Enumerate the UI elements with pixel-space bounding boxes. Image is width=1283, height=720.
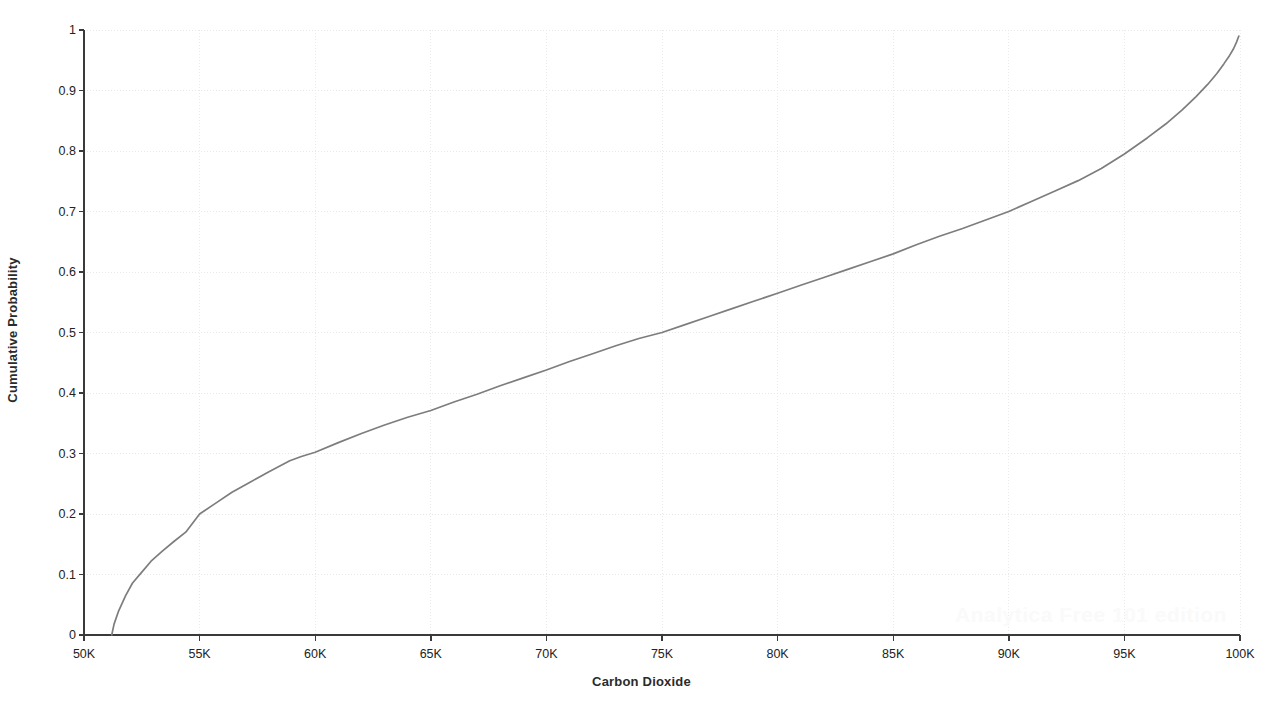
cdf-chart: Cumulative Probability Carbon Dioxide 00…: [0, 0, 1283, 720]
axis-tickmarks: [79, 30, 1240, 641]
data-series-layer: [112, 36, 1239, 635]
watermark-label: Analytica Free 101 edition: [955, 603, 1227, 627]
series-line-0: [112, 36, 1239, 635]
